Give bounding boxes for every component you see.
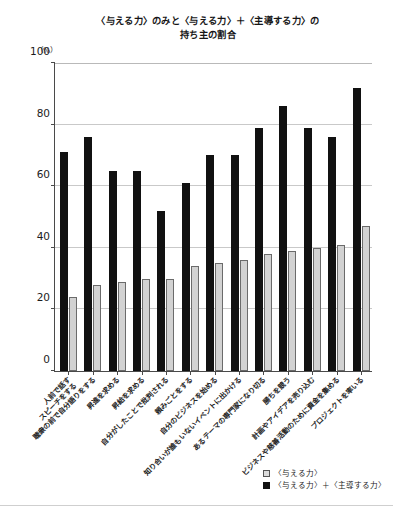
x-axis-label: 知り合いが誰もいないイベントに出かける: [143, 376, 244, 477]
x-axis-label: 勝ちを競う: [262, 376, 293, 407]
y-axis-tick-label: 80: [37, 107, 50, 119]
chart-title-line-2: 持ち主の割合: [58, 28, 358, 42]
x-axis-tick-mark: [215, 371, 216, 375]
bar-group: [109, 63, 126, 371]
x-axis-label: 自分がしたことで批判される: [100, 376, 171, 447]
bar-light: [142, 279, 150, 371]
bar-dark: [304, 128, 312, 371]
bar-dark: [279, 106, 287, 371]
bar-light: [313, 248, 321, 371]
bar-light: [240, 260, 248, 371]
x-axis-label: 聴衆の前で自分語りをする: [32, 376, 98, 442]
bar-group: [133, 63, 150, 371]
chart-figure: 〈与える力〉のみと〈与える力〉＋〈主導する力〉の 持ち主の割合 （%） 0204…: [0, 0, 393, 515]
bar-group: [231, 63, 248, 371]
bar-light: [69, 297, 77, 371]
y-axis-tick-label: 40: [37, 230, 50, 242]
bar-dark: [84, 137, 92, 371]
bar-series-container: [55, 63, 372, 371]
x-axis-label: 人前で話す: [42, 376, 73, 407]
x-axis-label: ビジネスや慈善活動のために資金を集める: [240, 376, 341, 477]
x-axis-tick-mark: [361, 371, 362, 375]
chart-title-line-1: 〈与える力〉のみと〈与える力〉＋〈主導する力〉の: [58, 14, 358, 28]
x-axis-label: あるテーマの専門家になり切る: [192, 376, 268, 452]
x-axis-label: 昇給を求める: [110, 376, 146, 412]
x-axis-tick-mark: [93, 371, 94, 375]
x-axis-tick-mark: [288, 371, 289, 375]
x-axis-label: プロジェクトを率いる: [310, 376, 366, 432]
legend-label: 〈与える力〉＋〈主導する力〉: [274, 480, 386, 492]
bar-dark: [231, 155, 239, 371]
bar-group: [255, 63, 272, 371]
x-axis-tick-mark: [312, 371, 313, 375]
x-axis-tick-mark: [239, 371, 240, 375]
y-axis-tick-label: 100: [30, 45, 50, 57]
y-axis-tick-label: 60: [37, 168, 50, 180]
x-axis-tick-mark: [337, 371, 338, 375]
x-axis-tick-mark: [117, 371, 118, 375]
bar-dark: [157, 211, 165, 371]
y-axis-tick-label: 20: [37, 291, 50, 303]
x-axis-label: 計画やアイデアを売り込む: [251, 376, 317, 442]
bar-dark: [133, 171, 141, 371]
bar-group: [328, 63, 345, 371]
bar-dark: [328, 137, 336, 371]
x-axis-tick-mark: [190, 371, 191, 375]
bar-light: [191, 266, 199, 371]
legend-swatch-light: [263, 470, 270, 477]
bar-light: [215, 263, 223, 371]
x-axis-label: 自分のビジネスを始める: [158, 376, 219, 437]
bar-light: [166, 279, 174, 371]
chart-title: 〈与える力〉のみと〈与える力〉＋〈主導する力〉の 持ち主の割合: [58, 14, 358, 41]
chart-legend: 〈与える力〉〈与える力〉＋〈主導する力〉: [263, 468, 386, 491]
bar-dark: [182, 183, 190, 371]
page-bottom-rule: [0, 505, 393, 506]
bar-dark: [109, 171, 117, 371]
x-axis-tick-mark: [68, 371, 69, 375]
plot-area: 020406080100: [54, 63, 372, 372]
bar-light: [362, 226, 370, 371]
bar-light: [337, 245, 345, 371]
y-axis-tick-label: 0: [43, 353, 50, 365]
bar-group: [60, 63, 77, 371]
bar-group: [182, 63, 199, 371]
x-axis-label: 昇進を求める: [86, 376, 122, 412]
bar-group: [304, 63, 321, 371]
legend-item: 〈与える力〉: [263, 468, 386, 480]
bar-light: [288, 251, 296, 371]
bar-dark: [60, 152, 68, 371]
legend-label: 〈与える力〉: [274, 468, 322, 480]
bar-group: [279, 63, 296, 371]
x-axis-tick-mark: [166, 371, 167, 375]
x-axis-label: 頼みごとをする: [154, 376, 195, 417]
x-axis-label: スピーチをする: [38, 382, 79, 423]
x-axis-tick-mark: [142, 371, 143, 375]
legend-swatch-dark: [263, 482, 270, 489]
bar-group: [353, 63, 370, 371]
bar-dark: [353, 88, 361, 371]
bar-dark: [206, 155, 214, 371]
bar-group: [206, 63, 223, 371]
bar-light: [118, 282, 126, 371]
bar-light: [264, 254, 272, 371]
bar-dark: [255, 128, 263, 371]
bar-group: [84, 63, 101, 371]
x-axis-tick-mark: [263, 371, 264, 375]
bar-light: [93, 285, 101, 371]
legend-item: 〈与える力〉＋〈主導する力〉: [263, 480, 386, 492]
bar-group: [157, 63, 174, 371]
